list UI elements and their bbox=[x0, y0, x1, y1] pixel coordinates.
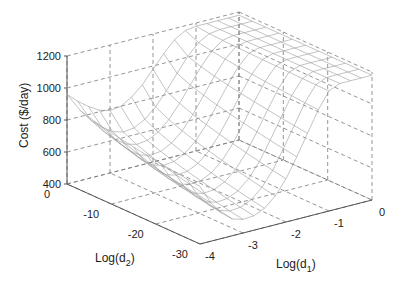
surface-plot: 40060080010001200-30-20-100-4-3-2-10 Cos… bbox=[0, 0, 399, 285]
x-tick-label: -2 bbox=[291, 228, 301, 240]
y-tick-label: -30 bbox=[172, 248, 188, 260]
y-tick-label: -10 bbox=[83, 208, 99, 220]
x-tick-label: -1 bbox=[334, 217, 344, 229]
tick-labels: 40060080010001200-30-20-100-4-3-2-10 bbox=[37, 50, 386, 262]
y-tick-label: -20 bbox=[128, 228, 144, 240]
z-tick-label: 1000 bbox=[37, 82, 61, 94]
z-tick-label: 800 bbox=[43, 114, 61, 126]
x-tick-label: -4 bbox=[205, 250, 215, 262]
cost-surface-mesh bbox=[67, 15, 372, 219]
z-tick-label: 600 bbox=[43, 146, 61, 158]
z-axis-label: Cost ($/day) bbox=[17, 83, 31, 148]
axes-box-grid bbox=[67, 12, 372, 244]
x-axis-label: Log(d1) bbox=[276, 257, 316, 274]
x-tick-label: -3 bbox=[248, 239, 258, 251]
y-tick-label: 0 bbox=[44, 188, 50, 200]
y-axis-label: Log(d2) bbox=[95, 251, 135, 268]
z-tick-label: 1200 bbox=[37, 50, 61, 62]
x-tick-label: 0 bbox=[379, 206, 385, 218]
